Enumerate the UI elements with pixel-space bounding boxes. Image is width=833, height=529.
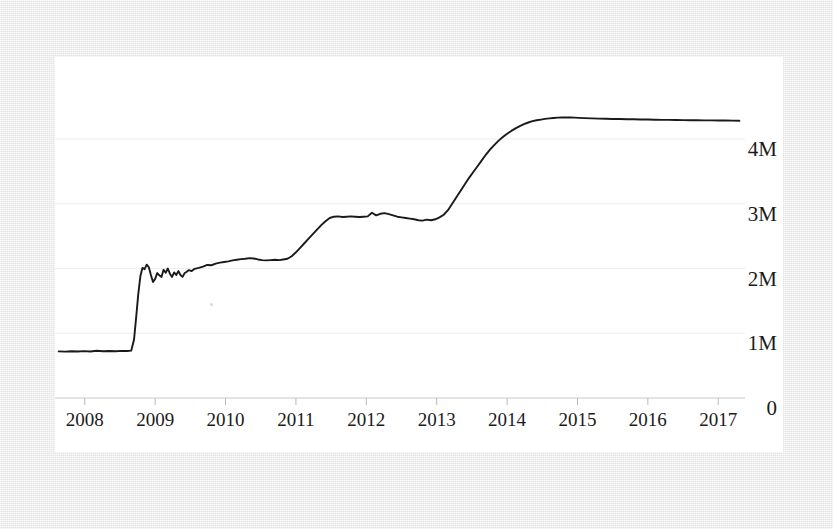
x-axis-tick-label: 2008 bbox=[66, 409, 104, 430]
x-axis-tick-label: 2011 bbox=[277, 409, 314, 430]
chart-card: 01M2M3M4M 200820092010201120122013201420… bbox=[55, 57, 783, 452]
x-axis-ticks bbox=[85, 398, 719, 405]
x-axis-tick-label: 2014 bbox=[488, 409, 526, 430]
y-axis-tick-label: 4M bbox=[748, 137, 778, 161]
x-axis-tick-label: 2017 bbox=[699, 409, 737, 430]
x-axis-tick-label: 2015 bbox=[558, 409, 596, 430]
gridlines bbox=[55, 139, 745, 333]
x-axis-tick-label: 2016 bbox=[629, 409, 667, 430]
paper-speck bbox=[210, 303, 213, 306]
y-axis-tick-label: 3M bbox=[748, 202, 778, 226]
line-chart: 01M2M3M4M 200820092010201120122013201420… bbox=[55, 57, 783, 452]
x-axis-tick-label: 2010 bbox=[207, 409, 245, 430]
y-axis-tick-label: 0 bbox=[767, 396, 778, 420]
x-axis-labels: 2008200920102011201220132014201520162017 bbox=[66, 409, 738, 430]
data-series-line bbox=[59, 117, 740, 351]
x-axis-tick-label: 2013 bbox=[418, 409, 456, 430]
y-axis-tick-label: 2M bbox=[748, 267, 778, 291]
y-axis-tick-label: 1M bbox=[748, 331, 778, 355]
x-axis-tick-label: 2012 bbox=[347, 409, 385, 430]
y-axis-labels: 01M2M3M4M bbox=[748, 137, 778, 420]
x-axis-tick-label: 2009 bbox=[136, 409, 174, 430]
